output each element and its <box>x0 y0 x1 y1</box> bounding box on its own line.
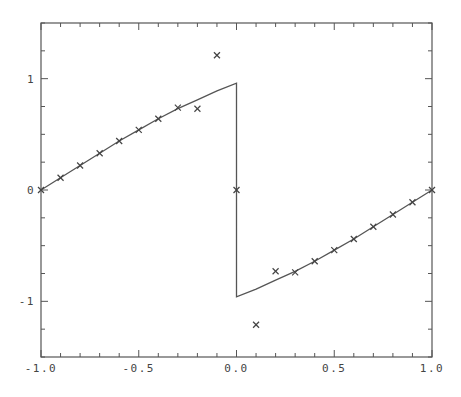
x-marker <box>312 258 318 264</box>
x-tick-label: -0.5 <box>123 362 156 375</box>
x-marker <box>390 211 396 217</box>
x-marker <box>370 224 376 230</box>
x-tick-label: -1.0 <box>25 362 58 375</box>
x-marker <box>155 116 161 122</box>
x-tick-label: 0.5 <box>322 362 346 375</box>
x-marker <box>58 175 64 181</box>
x-marker <box>214 52 220 58</box>
x-marker <box>351 236 357 242</box>
x-marker <box>273 268 279 274</box>
x-marker <box>136 127 142 133</box>
y-tick-label: 1 <box>27 73 35 86</box>
x-tick-label: 0.0 <box>224 362 248 375</box>
x-marker <box>97 150 103 156</box>
axis-tick-labels: -1.0-0.50.00.51.0-101 <box>19 73 444 375</box>
y-tick-label: -1 <box>19 295 35 308</box>
x-marker <box>116 138 122 144</box>
x-marker <box>194 106 200 112</box>
chart: -1.0-0.50.00.51.0-101 <box>0 0 461 397</box>
x-marker <box>253 322 259 328</box>
x-marker <box>409 199 415 205</box>
x-marker <box>331 247 337 253</box>
x-marker <box>77 163 83 169</box>
x-tick-label: 1.0 <box>420 362 444 375</box>
y-tick-label: 0 <box>27 184 35 197</box>
